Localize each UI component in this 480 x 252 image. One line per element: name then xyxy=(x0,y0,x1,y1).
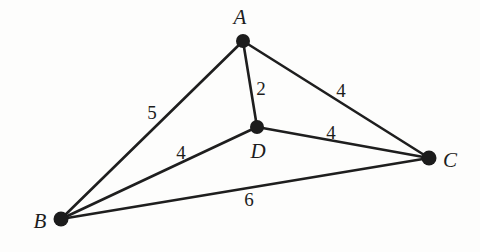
edge-weight-b-c: 6 xyxy=(244,189,254,210)
edge-weight-b-d: 4 xyxy=(176,142,186,163)
node-label-d: D xyxy=(249,139,265,163)
node-c xyxy=(422,151,437,166)
node-b xyxy=(54,212,69,227)
edge-a-d xyxy=(243,41,257,127)
node-a xyxy=(236,34,250,48)
edge-weight-group: 5 2 4 4 4 6 xyxy=(147,78,346,210)
edge-weight-a-c: 4 xyxy=(336,80,346,101)
node-d xyxy=(250,120,264,134)
edge-weight-a-d: 2 xyxy=(256,78,266,99)
graph-canvas: A B C D 5 2 4 4 4 6 xyxy=(0,0,480,252)
node-label-b: B xyxy=(34,209,47,233)
node-label-a: A xyxy=(232,5,247,29)
edge-b-d xyxy=(61,127,257,219)
graph-diagram: A B C D 5 2 4 4 4 6 xyxy=(0,0,480,252)
edge-weight-a-b: 5 xyxy=(147,102,157,123)
node-label-c: C xyxy=(443,148,458,172)
edge-weight-d-c: 4 xyxy=(326,122,336,143)
